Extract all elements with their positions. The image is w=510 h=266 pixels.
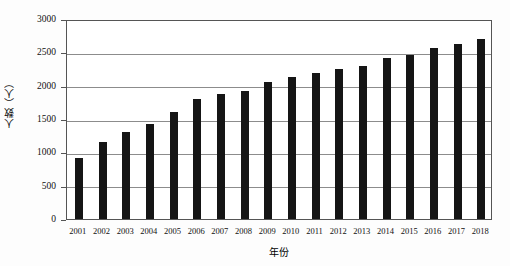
bar [170, 112, 178, 219]
x-axis-tick-label: 2008 [231, 227, 257, 236]
x-axis-title: 年份 [269, 247, 289, 258]
bar [75, 158, 83, 219]
bar [99, 142, 107, 219]
x-axis-tick-label: 2005 [160, 227, 186, 236]
bar [383, 58, 391, 219]
y-axis-tick-label: 1500 [22, 115, 56, 125]
y-axis-tick-label: 3000 [22, 15, 56, 25]
bar [454, 44, 462, 219]
x-axis-tick-label: 2003 [112, 227, 138, 236]
x-axis-tick-label: 2017 [444, 227, 470, 236]
bar [406, 55, 414, 219]
x-axis-tick-label: 2011 [302, 227, 328, 236]
bar [477, 39, 485, 219]
x-axis-tick-label: 2009 [254, 227, 280, 236]
x-axis-tick-label: 2013 [349, 227, 375, 236]
x-axis-tick-label: 2002 [89, 227, 115, 236]
y-axis-tick-label: 0 [22, 215, 56, 225]
x-axis-tick-label: 2015 [396, 227, 422, 236]
y-axis-tick-label: 1000 [22, 148, 56, 158]
x-axis-tick-label: 2018 [467, 227, 493, 236]
bar [430, 48, 438, 219]
x-axis-tick-label: 2004 [136, 227, 162, 236]
bar [359, 66, 367, 219]
bar-series [67, 21, 491, 219]
bar [146, 124, 154, 219]
x-axis-title-wrap: 年份 [66, 244, 492, 259]
plot-area [66, 20, 492, 220]
x-axis-tick-label: 2012 [325, 227, 351, 236]
bar [335, 69, 343, 219]
x-axis-tick-label: 2001 [65, 227, 91, 236]
x-axis-tick-label: 2014 [373, 227, 399, 236]
bar [312, 73, 320, 219]
y-axis-title: 人数（人） [4, 78, 20, 128]
x-axis-tick-label: 2016 [420, 227, 446, 236]
y-axis-tick-label: 500 [22, 182, 56, 192]
bar-chart: 人数（人） 050010001500200025003000 200120022… [0, 0, 510, 266]
bar [288, 77, 296, 219]
x-axis-tick-label: 2006 [183, 227, 209, 236]
bar [241, 91, 249, 219]
y-axis-tick-mark [61, 220, 66, 221]
y-axis-tick-label: 2000 [22, 82, 56, 92]
bar [122, 132, 130, 219]
x-axis-tick-label: 2010 [278, 227, 304, 236]
x-axis-tick-label: 2007 [207, 227, 233, 236]
bar [264, 82, 272, 219]
y-axis-tick-label: 2500 [22, 48, 56, 58]
bar [217, 94, 225, 219]
bar [193, 99, 201, 219]
